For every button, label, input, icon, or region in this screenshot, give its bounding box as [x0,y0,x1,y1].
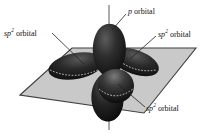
label-sp2-front-rest: orbital [156,104,179,113]
sp2-hybridization-figure: p orbital sp2 orbital sp2 orbital sp2 or… [0,0,213,133]
label-p-orbital: p orbital [128,8,155,16]
label-sp2-orbital-right: sp2 orbital [158,31,191,39]
label-sp2-right-rest: orbital [168,30,191,39]
label-sp2-left-rest: orbital [14,29,37,38]
label-sp2-orbital-left: sp2 orbital [4,30,37,38]
leader-line-p-orbital [112,14,126,30]
label-p-orbital-rest: orbital [132,7,155,16]
orbital-diagram-canvas [0,0,213,133]
sp2-lobe-front [98,69,134,103]
label-sp2-orbital-front: sp2 orbital [146,105,179,113]
